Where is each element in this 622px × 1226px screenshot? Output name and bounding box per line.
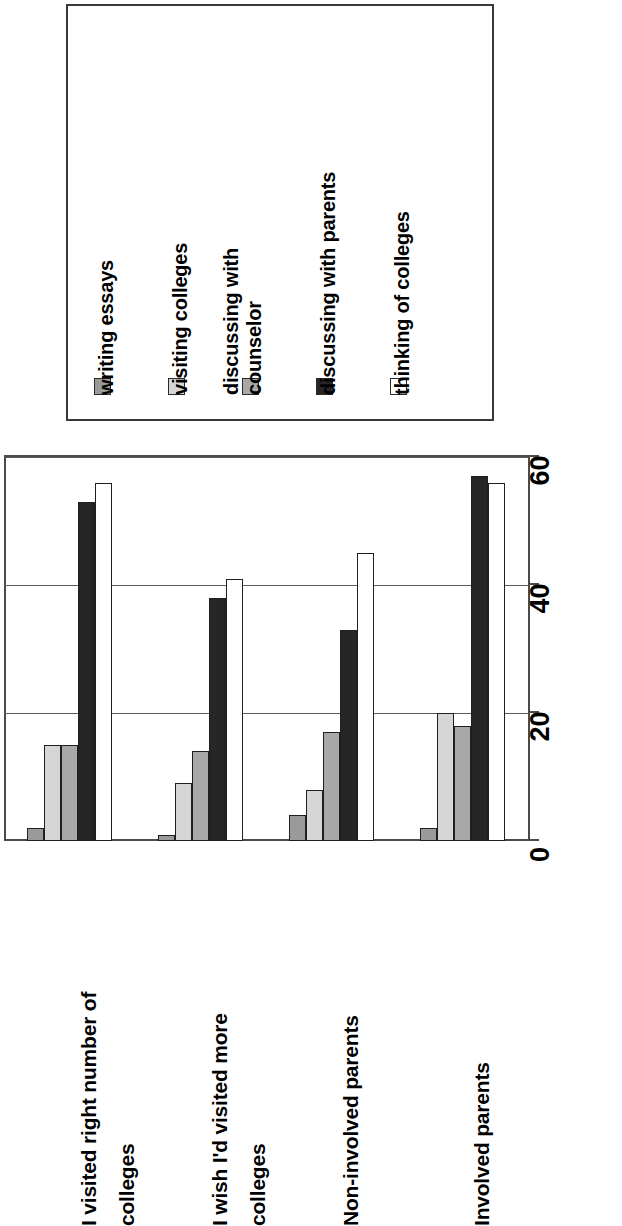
bar-group xyxy=(266,457,397,841)
legend-entry: thinking of colleges xyxy=(390,6,464,409)
legend-entry: discussing with counselor xyxy=(242,6,316,409)
bar xyxy=(306,790,323,841)
axis-line xyxy=(528,455,530,841)
bar xyxy=(78,502,95,841)
bar xyxy=(226,579,243,841)
category-label-wrap: Non-involved parents xyxy=(266,852,397,1226)
bar xyxy=(357,553,374,841)
category-label: Non-involved parents xyxy=(332,852,370,1226)
bar-group xyxy=(397,457,528,841)
bar xyxy=(44,745,61,841)
bar-groups xyxy=(4,457,528,841)
bar xyxy=(192,751,209,841)
bar xyxy=(323,732,340,841)
bar xyxy=(437,713,454,841)
legend-entry: writing essays xyxy=(94,6,168,409)
bar xyxy=(289,815,306,841)
bar xyxy=(454,726,471,841)
chart-legend: writing essaysvisiting collegesdiscussin… xyxy=(66,4,494,421)
bar xyxy=(27,828,44,841)
legend-label: visiting colleges xyxy=(169,35,192,395)
legend-label: discussing with counselor xyxy=(220,35,266,395)
legend-entry-list: writing essaysvisiting collegesdiscussin… xyxy=(68,6,492,419)
bar xyxy=(61,745,78,841)
category-label-wrap: Involved parents xyxy=(397,852,528,1226)
category-label-wrap: I visited right number of colleges xyxy=(4,852,135,1226)
legend-entry: discussing with parents xyxy=(316,6,390,409)
axis-tick-label: 20 xyxy=(525,711,556,741)
bar xyxy=(95,483,112,841)
category-axis-labels: I visited right number of collegesI wish… xyxy=(4,852,528,1226)
bar xyxy=(158,835,175,841)
axis-tick-label: 40 xyxy=(525,583,556,613)
category-label-wrap: I wish I'd visited more colleges xyxy=(135,852,266,1226)
legend-label: writing essays xyxy=(95,35,118,395)
legend-label: thinking of colleges xyxy=(391,35,414,395)
bar xyxy=(420,828,437,841)
bar xyxy=(471,476,488,841)
category-label: Involved parents xyxy=(463,852,501,1226)
bar xyxy=(175,783,192,841)
bar-group xyxy=(4,457,135,841)
value-axis: 0204060 xyxy=(528,443,622,843)
bar xyxy=(488,483,505,841)
bar xyxy=(340,630,357,841)
axis-tick-label: 0 xyxy=(525,847,556,862)
legend-label: discussing with parents xyxy=(317,35,340,395)
axis-tick xyxy=(528,839,539,841)
bar xyxy=(209,598,226,841)
axis-tick-label: 60 xyxy=(525,455,556,485)
bar-group xyxy=(135,457,266,841)
